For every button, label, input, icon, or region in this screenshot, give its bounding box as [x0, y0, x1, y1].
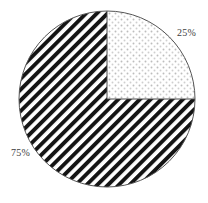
pie-slice-25 — [107, 11, 195, 99]
pie-label-75: 75% — [11, 147, 30, 158]
watermark-text — [46, 190, 164, 201]
pie-label-25: 25% — [177, 27, 196, 38]
pie-chart: 25% 75% — [0, 0, 208, 203]
